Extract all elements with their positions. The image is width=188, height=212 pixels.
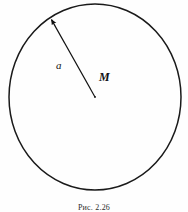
center-label-m: M bbox=[99, 71, 110, 83]
center-point-dot bbox=[94, 96, 96, 98]
radius-label-a: a bbox=[56, 60, 62, 71]
figure-caption: Рис. 2.26 bbox=[0, 203, 188, 212]
circle-diagram-svg bbox=[0, 0, 188, 212]
figure-diagram: a M Рис. 2.26 bbox=[0, 0, 188, 212]
